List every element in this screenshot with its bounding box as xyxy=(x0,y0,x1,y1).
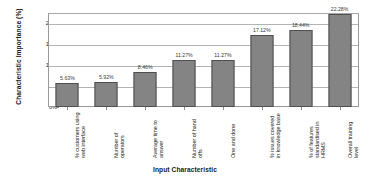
x-tick-mark xyxy=(145,107,146,110)
bar-slot: 5.63% xyxy=(48,13,87,107)
bar-slot: 22.28% xyxy=(320,13,359,107)
bar-slot: 8.46% xyxy=(126,13,165,107)
bar-value-label: 11.27% xyxy=(214,52,231,58)
x-tick-mark xyxy=(223,107,224,110)
bar[interactable] xyxy=(173,60,196,107)
x-category-label: One and done xyxy=(230,112,236,158)
bar-value-label: 22.28% xyxy=(331,6,349,12)
x-category-label: Average time to answer xyxy=(152,112,164,158)
bars-layer: 5.63%5.92%8.46%11.27%11.27%17.12%18.44%2… xyxy=(48,13,359,107)
bar-slot: 11.27% xyxy=(165,13,204,107)
x-category-label: Overall training level xyxy=(347,112,359,158)
bar-value-label: 8.46% xyxy=(138,64,153,70)
x-category-label: % issues covered in knowledge base xyxy=(269,112,281,158)
bar-chart: Characteristic Importance (%) 20%15%10%5… xyxy=(0,0,370,181)
bar[interactable] xyxy=(56,83,79,107)
x-tick-mark xyxy=(301,107,302,110)
x-category-label: Number of hand offs xyxy=(191,112,203,158)
bar-value-label: 17.12% xyxy=(253,27,271,33)
bar[interactable] xyxy=(328,14,351,107)
x-tick-mark xyxy=(67,107,68,110)
bar[interactable] xyxy=(289,30,312,107)
bar[interactable] xyxy=(250,35,273,107)
bar[interactable] xyxy=(134,72,157,107)
y-tick-mark xyxy=(56,107,59,108)
bar-value-label: 18.44% xyxy=(292,22,310,28)
x-tick-mark xyxy=(106,107,107,110)
x-category-label: % of features standardised in HRMS xyxy=(308,112,327,158)
bar[interactable] xyxy=(211,60,234,107)
x-category-label: Number of operators xyxy=(113,112,125,158)
bar-value-label: 11.27% xyxy=(175,52,192,58)
bar-slot: 5.92% xyxy=(87,13,126,107)
bar-slot: 17.12% xyxy=(242,13,281,107)
x-axis-title: Input Characteristic xyxy=(0,166,370,173)
bar-value-label: 5.63% xyxy=(60,75,75,81)
bar-slot: 11.27% xyxy=(204,13,243,107)
x-category-label: % customers using web interface xyxy=(74,112,86,158)
bar-value-label: 5.92% xyxy=(99,74,114,80)
x-tick-mark xyxy=(262,107,263,110)
x-tick-mark xyxy=(184,107,185,110)
x-tick-mark xyxy=(340,107,341,110)
bar-slot: 18.44% xyxy=(281,13,320,107)
y-axis-title: Characteristic Importance (%) xyxy=(15,2,22,112)
bar[interactable] xyxy=(95,82,118,107)
